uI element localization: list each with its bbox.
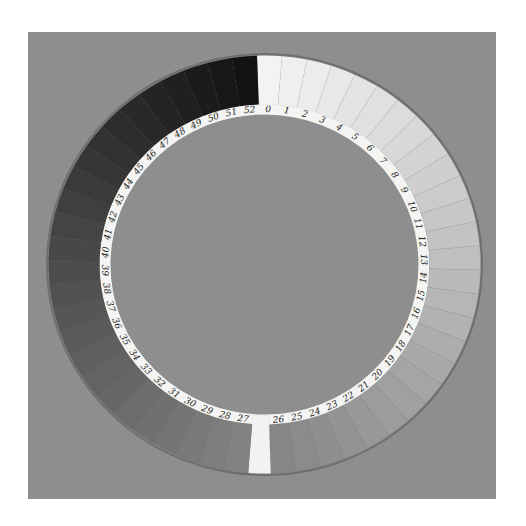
swatch-label: 0 bbox=[265, 104, 271, 114]
swatch-label: 39 bbox=[100, 264, 110, 276]
swatch-label: 40 bbox=[100, 246, 111, 259]
swatch-label: 26 bbox=[271, 414, 285, 425]
swatch-13 bbox=[429, 246, 481, 270]
cyanometer-ring: 0123456789101112131415161718192021222324… bbox=[0, 0, 526, 526]
swatch-label: 52 bbox=[243, 104, 256, 115]
swatch-segments bbox=[47, 54, 482, 475]
swatch-label: 12 bbox=[416, 235, 428, 248]
swatch-label: 38 bbox=[101, 282, 113, 295]
swatch-label: 27 bbox=[236, 413, 250, 425]
swatch-label: 13 bbox=[419, 254, 429, 266]
swatch-label: 14 bbox=[418, 271, 429, 284]
